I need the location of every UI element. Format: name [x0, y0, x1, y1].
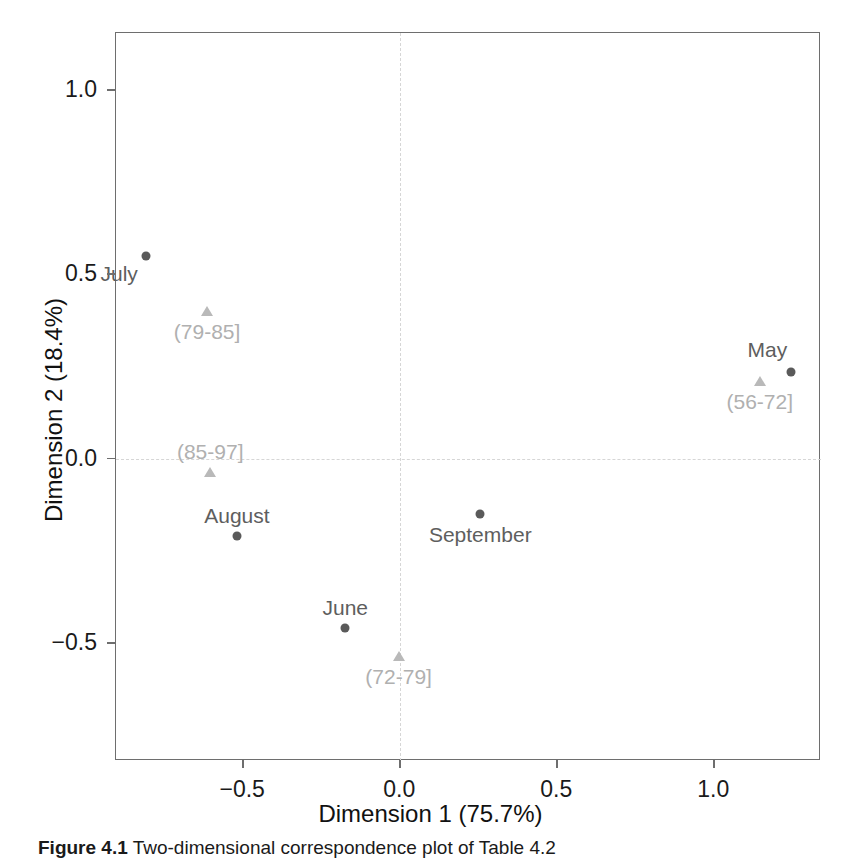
x-tick-mark [242, 760, 244, 768]
data-point-september [476, 510, 485, 519]
y-tick-mark [107, 89, 115, 91]
x-tick-mark [556, 760, 558, 768]
data-point-79-85 [201, 306, 213, 316]
figure-caption-label: Figure 4.1 [38, 837, 128, 858]
x-tick-label: 1.0 [697, 776, 729, 803]
data-point-56-72 [754, 376, 766, 386]
y-tick-mark [107, 642, 115, 644]
data-label-august: August [204, 505, 269, 526]
data-point-august [232, 532, 241, 541]
data-label-june: June [322, 597, 368, 618]
data-point-85-97 [204, 467, 216, 477]
x-tick-label: −0.5 [219, 776, 264, 803]
y-tick-mark [107, 273, 115, 275]
data-point-june [341, 624, 350, 633]
x-tick-label: 0.0 [383, 776, 415, 803]
x-tick-mark [713, 760, 715, 768]
data-label-72-79: (72-79] [365, 666, 432, 687]
y-axis-title: Dimension 2 (18.4%) [40, 46, 68, 774]
data-point-72-79 [393, 651, 405, 661]
x-axis-title: Dimension 1 (75.7%) [0, 800, 861, 828]
data-point-july [141, 252, 150, 261]
plot-panel: JulyMayAugustSeptemberJune(79-85](56-72]… [115, 32, 820, 760]
y-tick-label: 0.0 [65, 444, 97, 471]
x-tick-mark [399, 760, 401, 768]
data-label-may: May [747, 339, 787, 360]
data-label-85-97: (85-97] [177, 441, 244, 462]
figure-caption-text: Two-dimensional correspondence plot of T… [133, 837, 556, 858]
data-point-may [787, 368, 796, 377]
figure-caption: Figure 4.1 Two-dimensional correspondenc… [38, 836, 838, 860]
y-tick-label: 0.5 [65, 260, 97, 287]
data-label-september: September [429, 524, 532, 545]
x-tick-label: 0.5 [540, 776, 572, 803]
y-tick-label: 1.0 [65, 76, 97, 103]
data-label-79-85: (79-85] [174, 321, 241, 342]
data-label-56-72: (56-72] [726, 391, 793, 412]
y-tick-mark [107, 458, 115, 460]
